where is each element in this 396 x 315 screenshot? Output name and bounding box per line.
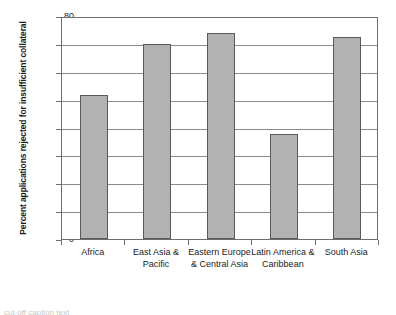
- plot-area: [61, 17, 378, 240]
- x-axis-category-label: Eastern Europe & Central Asia: [188, 247, 251, 270]
- bar: [207, 33, 235, 239]
- caption-sliver: cut-off caption text: [4, 308, 392, 315]
- x-axis-category-label: Latin America & Caribbean: [251, 247, 314, 270]
- x-axis-tick-mark: [188, 240, 189, 245]
- x-axis-category-label: South Asia: [315, 247, 378, 259]
- x-axis-tick-mark: [378, 240, 379, 245]
- x-axis-category-label: Africa: [61, 247, 124, 259]
- x-axis-tick-mark: [124, 240, 125, 245]
- bar: [333, 37, 361, 239]
- bar: [270, 134, 298, 239]
- x-axis-tick-mark: [251, 240, 252, 245]
- bar: [80, 95, 108, 239]
- bar: [143, 44, 171, 239]
- x-axis-tick-mark: [61, 240, 62, 245]
- x-axis-tick-mark: [315, 240, 316, 245]
- bar-chart-figure: Percent applications rejected for insuff…: [0, 0, 396, 315]
- x-axis-category-label: East Asia & Pacific: [124, 247, 187, 270]
